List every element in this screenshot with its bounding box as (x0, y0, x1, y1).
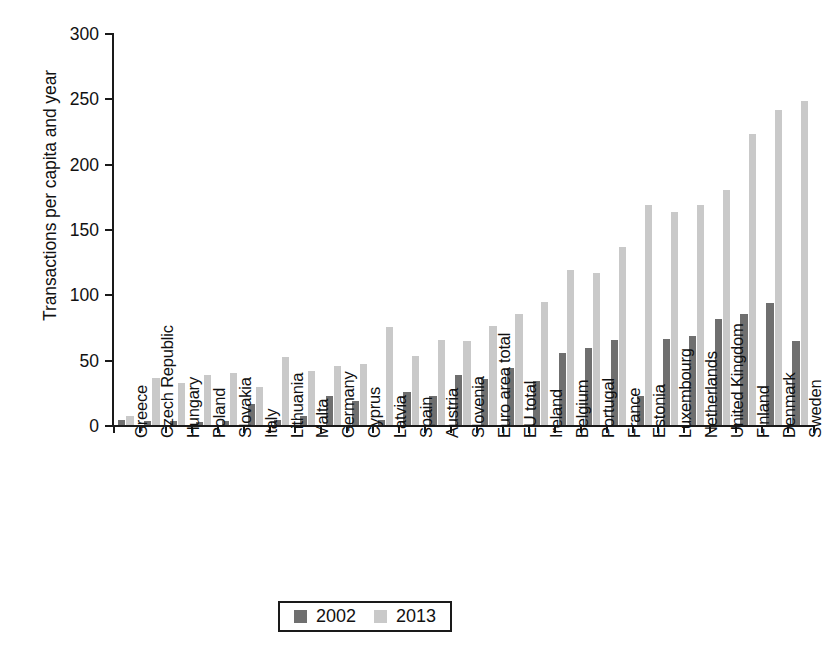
x-tick-label: Ireland (547, 389, 566, 438)
y-tick-150: 150 (105, 229, 113, 231)
x-tick-label: Euro area total (495, 333, 514, 438)
y-tick-label: 300 (70, 24, 99, 45)
x-tick (113, 425, 115, 433)
bar-2013 (801, 101, 808, 425)
bar-group (403, 33, 418, 425)
legend-swatch-icon (374, 610, 387, 623)
x-tick-label: Denmark (780, 372, 799, 438)
x-tick-label: Portugal (599, 378, 618, 438)
legend-entry-2013: 2013 (374, 607, 436, 625)
legend-entry-2002: 2002 (294, 607, 356, 625)
bar-group (196, 33, 211, 425)
legend-label: 2013 (396, 607, 436, 625)
x-tick-label: Malta (313, 399, 332, 438)
bar-group (352, 33, 367, 425)
y-tick-label: 200 (70, 154, 99, 175)
x-tick-label: Sweden (806, 380, 825, 438)
x-tick-label: Poland (210, 388, 229, 438)
x-tick-label: United Kingdom (728, 323, 747, 438)
y-tick-100: 100 (105, 294, 113, 296)
x-tick-label: Cyprus (365, 387, 384, 438)
x-tick-label: Lithuania (288, 373, 307, 438)
bar-group (429, 33, 444, 425)
x-tick-label: Finland (754, 385, 773, 438)
bar-group (378, 33, 393, 425)
x-axis-labels: GreeceCzech RepublicHungaryPolandSlovaki… (113, 438, 813, 598)
bar-group (248, 33, 263, 425)
bar-group (455, 33, 470, 425)
x-tick-label: Slovakia (236, 377, 255, 438)
y-tick-label: 150 (70, 220, 99, 241)
x-tick-label: Spain (417, 397, 436, 438)
bar-group (274, 33, 289, 425)
bar-group (611, 33, 626, 425)
x-tick-label: Slovenia (469, 376, 488, 438)
y-tick-label: 100 (70, 285, 99, 306)
y-tick-0: 0 (105, 425, 113, 427)
bar-group (533, 33, 548, 425)
bar-group (326, 33, 341, 425)
y-tick-250: 250 (105, 98, 113, 100)
y-tick-300: 300 (105, 33, 113, 35)
x-tick-label: Estonia (650, 384, 669, 438)
bar-group (300, 33, 315, 425)
x-tick-label: Belgium (573, 380, 592, 438)
y-tick-200: 200 (105, 164, 113, 166)
bar-2013 (749, 134, 756, 425)
bar-group (222, 33, 237, 425)
legend-swatch-icon (294, 610, 307, 623)
x-tick-label: Italy (262, 409, 281, 438)
y-tick-50: 50 (105, 360, 113, 362)
x-tick-label: Greece (132, 385, 151, 438)
legend-label: 2002 (316, 607, 356, 625)
x-tick-label: France (625, 388, 644, 438)
bar-group (585, 33, 600, 425)
y-tick-label: 50 (80, 350, 99, 371)
bar-group (637, 33, 652, 425)
x-tick-label: Hungary (184, 377, 203, 438)
y-tick-label: 250 (70, 89, 99, 110)
bar-group (792, 33, 807, 425)
bar-group (559, 33, 574, 425)
x-tick-label: EU total (521, 381, 540, 438)
x-tick-label: Czech Republic (158, 325, 177, 438)
x-tick-label: Latvia (391, 395, 410, 438)
x-tick-label: Germany (339, 372, 358, 438)
bar-2002 (118, 420, 125, 425)
y-axis-label: Transactions per capita and year (40, 0, 61, 396)
bar-group (766, 33, 781, 425)
x-tick-label: Luxembourg (676, 348, 695, 438)
y-tick-label: 0 (89, 416, 99, 437)
bar-group (118, 33, 133, 425)
x-tick-label: Austria (443, 388, 462, 438)
x-tick-label: Netherlands (702, 351, 721, 438)
chart-legend: 20022013 (278, 601, 452, 632)
